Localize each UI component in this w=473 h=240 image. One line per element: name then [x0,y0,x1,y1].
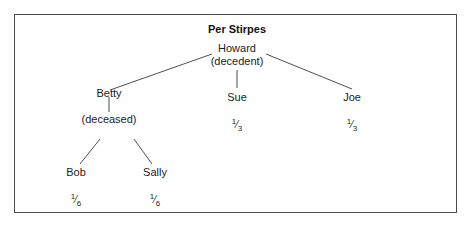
node-joe-label: Joe [343,91,361,103]
node-howard-sublabel: (decedent) [211,55,264,68]
share-joe: 1⁄3 [347,117,358,133]
share-sue: 1⁄3 [232,117,243,133]
node-sue-label: Sue [227,91,247,103]
share-sally-denominator: 6 [156,199,160,208]
node-sue: Sue [227,91,247,104]
share-sally: 1⁄6 [150,192,161,208]
node-bob-label: Bob [66,166,86,178]
node-howard: Howard (decedent) [211,42,264,68]
node-betty: Betty [96,87,121,100]
node-sally: Sally [143,166,167,179]
page-title: Per Stirpes [208,23,266,35]
node-sally-label: Sally [143,166,167,178]
node-betty-sublabel-wrap: (deceased) [81,113,136,126]
node-betty-sublabel: (deceased) [81,113,136,125]
node-bob: Bob [66,166,86,179]
node-betty-label: Betty [96,87,121,99]
share-bob: 1⁄6 [71,192,82,208]
share-joe-denominator: 3 [353,124,357,133]
node-joe: Joe [343,91,361,104]
node-howard-label: Howard [218,42,256,54]
share-bob-denominator: 6 [77,199,81,208]
share-sue-denominator: 3 [238,124,242,133]
